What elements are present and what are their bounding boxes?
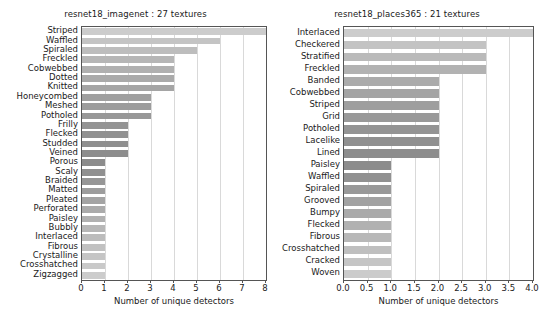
bar-right-7	[344, 113, 439, 122]
x-tick-label: 0.0	[336, 283, 350, 293]
y-tick-label: Crosshatched	[20, 260, 78, 269]
bar-left-5	[82, 75, 174, 82]
bar-row	[82, 178, 266, 185]
plot-area-right	[343, 26, 534, 281]
gridline-right-8	[533, 27, 534, 280]
bar-row	[82, 75, 266, 82]
bar-right-14	[344, 197, 391, 206]
x-axis-title-right: Number of unique detectors	[343, 296, 534, 306]
bar-row	[82, 122, 266, 129]
bar-row	[344, 246, 533, 255]
figure-root: resnet18_imagenet : 27 textures StripedW…	[0, 0, 543, 330]
y-tick-label: Woven	[311, 268, 340, 277]
bar-row	[82, 113, 266, 120]
bar-row	[82, 188, 266, 195]
bar-right-10	[344, 149, 439, 158]
x-tick-label: 3.5	[502, 283, 516, 293]
y-tick-label: Lacelike	[306, 136, 340, 145]
x-tick-mark	[532, 280, 533, 283]
y-tick-label: Fibrous	[48, 242, 78, 251]
y-tick-label: Flecked	[46, 129, 78, 138]
bar-row	[344, 185, 533, 194]
x-tick-label: 0	[78, 283, 83, 293]
bar-left-18	[82, 197, 105, 204]
y-tick-label: Freckled	[305, 64, 340, 73]
x-tick-mark	[438, 280, 439, 283]
bar-left-16	[82, 178, 105, 185]
bar-row	[82, 216, 266, 223]
y-tick-label: Waffled	[46, 36, 78, 45]
bar-right-5	[344, 89, 439, 98]
bar-left-17	[82, 188, 105, 195]
bar-left-19	[82, 206, 105, 213]
x-tick-label: 7	[239, 283, 244, 293]
y-tick-label: Crosshatched	[282, 244, 340, 253]
bar-left-1	[82, 38, 220, 45]
bar-right-16	[344, 221, 391, 230]
x-tick-label: 3.0	[478, 283, 492, 293]
bar-right-11	[344, 161, 391, 170]
y-tick-label: Waffled	[308, 172, 340, 181]
bar-row	[82, 272, 266, 279]
bar-series-left	[82, 27, 266, 280]
y-tick-label: Paisley	[311, 160, 340, 169]
bar-right-9	[344, 137, 439, 146]
bar-right-2	[344, 53, 486, 62]
bar-row	[344, 221, 533, 230]
bar-left-23	[82, 244, 105, 251]
bar-right-19	[344, 258, 391, 267]
bar-left-8	[82, 103, 151, 110]
y-tick-label: Striped	[309, 100, 340, 109]
bar-row	[344, 89, 533, 98]
bar-row	[344, 149, 533, 158]
y-tick-label: Veined	[49, 148, 78, 157]
x-tick-label: 1	[101, 283, 106, 293]
bar-row	[82, 66, 266, 73]
y-tick-label: Perforated	[34, 204, 78, 213]
x-tick-labels-left: 012345678	[81, 283, 267, 295]
bar-left-2	[82, 47, 197, 54]
x-axis-title-left: Number of unique detectors	[81, 296, 267, 306]
bar-row	[82, 169, 266, 176]
y-tick-label: Grid	[322, 112, 340, 121]
bar-row	[344, 233, 533, 242]
y-tick-label: Bumpy	[310, 208, 340, 217]
x-tick-label: 2.5	[454, 283, 468, 293]
x-tick-label: 6	[216, 283, 221, 293]
plot-area-left	[81, 26, 267, 281]
bar-series-right	[344, 27, 533, 280]
bar-row	[344, 65, 533, 74]
bar-right-18	[344, 246, 391, 255]
bar-row	[82, 253, 266, 260]
bar-right-13	[344, 185, 391, 194]
bar-row	[344, 77, 533, 86]
y-tick-label: Interlaced	[35, 232, 78, 241]
y-tick-label: Potholed	[303, 124, 340, 133]
bar-row	[344, 113, 533, 122]
x-tick-mark	[343, 280, 344, 283]
gridline-left-8	[266, 27, 267, 280]
bar-left-24	[82, 253, 105, 260]
bar-right-17	[344, 233, 391, 242]
x-tick-mark	[104, 280, 105, 283]
x-tick-labels-right: 0.00.51.01.52.02.53.03.54.0	[343, 283, 534, 295]
bar-left-20	[82, 216, 105, 223]
bar-left-26	[82, 272, 105, 279]
bar-right-4	[344, 77, 439, 86]
y-tick-label: Meshed	[45, 101, 78, 110]
y-tick-label: Freckled	[43, 54, 78, 63]
bar-left-25	[82, 263, 105, 270]
bar-row	[82, 197, 266, 204]
y-tick-label: Potholed	[41, 111, 78, 120]
bar-right-12	[344, 173, 391, 182]
bar-left-21	[82, 225, 105, 232]
x-tick-mark	[414, 280, 415, 283]
y-tick-label: Honeycombed	[17, 92, 78, 101]
x-tick-label: 3	[147, 283, 152, 293]
bar-left-7	[82, 94, 151, 101]
bar-right-6	[344, 101, 439, 110]
x-tick-label: 2	[124, 283, 129, 293]
bar-row	[344, 258, 533, 267]
bar-row	[82, 38, 266, 45]
x-tick-label: 4	[170, 283, 175, 293]
